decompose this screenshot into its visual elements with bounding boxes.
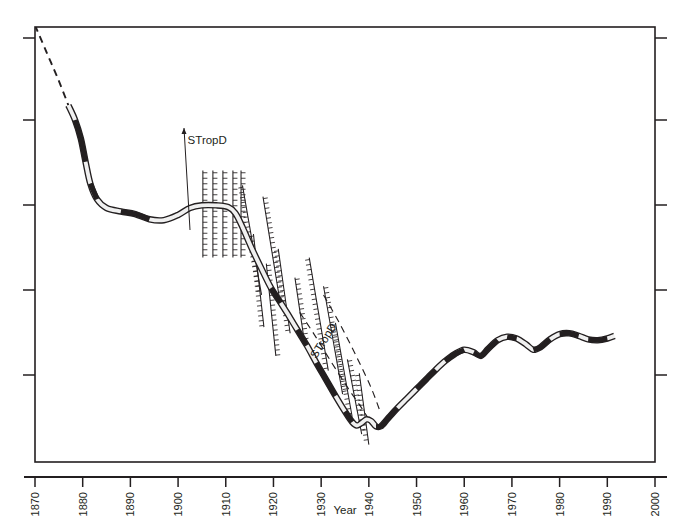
x-tick-label: 1870: [29, 492, 41, 516]
x-axis-title: Year: [333, 504, 356, 516]
x-tick-label: 1920: [267, 492, 279, 516]
x-tick-label: 1960: [458, 492, 470, 516]
x-tick-label: 1940: [363, 492, 375, 516]
x-tick-label: 1910: [220, 492, 232, 516]
x-tick-label: 1890: [124, 492, 136, 516]
figure-caption-fragment: [0, 521, 679, 529]
chart-canvas: 1870188018901900191019201930194019501960…: [0, 0, 679, 529]
x-tick-label: 1980: [554, 492, 566, 516]
x-tick-label: 1990: [601, 492, 613, 516]
x-tick-label: 1930: [315, 492, 327, 516]
x-tick-label: 2000: [649, 492, 661, 516]
x-tick-label: 1900: [172, 492, 184, 516]
x-tick-label: 1880: [77, 492, 89, 516]
x-axis: [24, 477, 667, 487]
annotation-stropd-1: STropD: [188, 134, 227, 146]
x-tick-label: 1950: [411, 492, 423, 516]
figure-container: 1870188018901900191019201930194019501960…: [0, 0, 679, 529]
plot-frame: [35, 27, 655, 462]
x-tick-label: 1970: [506, 492, 518, 516]
